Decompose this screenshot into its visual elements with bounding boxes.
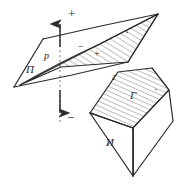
label-minus-bottom: − <box>67 110 74 125</box>
geometry-figure: П p + − − + · г Г · И <box>0 0 180 184</box>
label-dot-on-plane: · <box>125 25 129 39</box>
label-body-gamma: Г <box>129 89 137 101</box>
wedge-body-gamma <box>90 68 173 176</box>
label-plus-top: + <box>68 6 75 21</box>
label-dot-on-body: · <box>154 83 158 95</box>
label-minus-on-plane: − <box>78 41 84 52</box>
label-body-i: И <box>105 136 115 148</box>
label-plane-pi: П <box>25 63 35 75</box>
figure-canvas: П p + − − + · г Г · И <box>0 0 180 184</box>
label-edge-g: г <box>112 71 116 82</box>
label-plus-on-plane: + <box>94 48 100 59</box>
label-line-p: p <box>43 50 49 61</box>
